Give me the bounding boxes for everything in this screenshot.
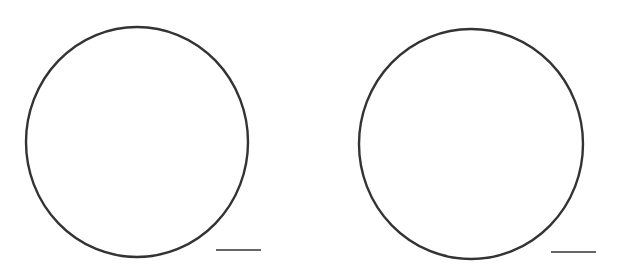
panel-right bbox=[359, 29, 596, 259]
figure-canvas bbox=[0, 0, 627, 278]
panel-left bbox=[26, 27, 261, 257]
circle-outline-right bbox=[359, 29, 583, 259]
circle-outline-left bbox=[26, 27, 248, 257]
